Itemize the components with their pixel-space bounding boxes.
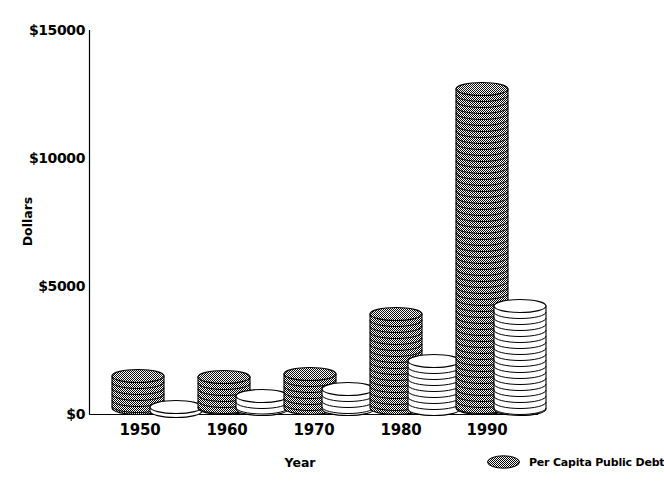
bar-group-1960	[198, 371, 288, 416]
legend-label-per-capita-public-debt: Per Capita Public Debt	[529, 456, 664, 469]
bar-group-1990	[456, 83, 546, 416]
bar-group-1950	[112, 370, 202, 418]
y-tick-label-0: $0	[0, 407, 85, 421]
x-tick-label-1980: 1980	[356, 421, 446, 439]
bar-group-1980	[370, 308, 460, 416]
bar-1960-secondary	[236, 390, 288, 416]
y-tick-label-5000: $5000	[0, 279, 85, 293]
y-tick-label-15000: $15000	[0, 23, 85, 37]
bar-1950-secondary	[150, 401, 202, 418]
y-tick-label-10000: $10000	[0, 151, 85, 165]
y-axis-title: Dollars	[20, 182, 35, 262]
bar-1990-secondary	[494, 300, 546, 416]
dark-coin-icon	[487, 455, 520, 469]
chart-legend: Per Capita Public Debt	[487, 455, 664, 469]
x-tick-label-1990: 1990	[442, 421, 532, 439]
x-tick-label-1950: 1950	[95, 421, 185, 439]
bar-1970-secondary	[322, 383, 374, 416]
x-tick-label-1970: 1970	[269, 421, 359, 439]
bar-1980-secondary	[408, 355, 460, 416]
x-tick-label-1960: 1960	[182, 421, 272, 439]
bar-group-1970	[284, 368, 374, 416]
